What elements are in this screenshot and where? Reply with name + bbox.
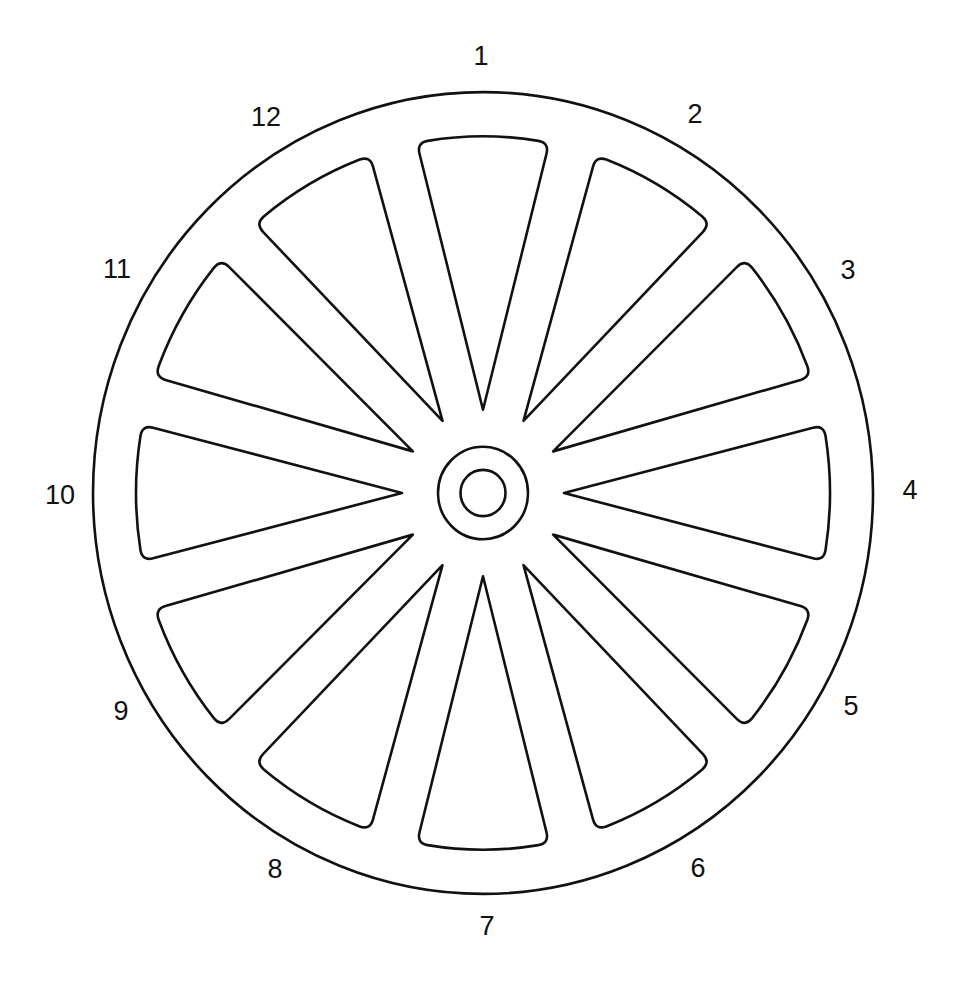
label-6: 6 <box>690 853 705 883</box>
outer-rim <box>93 92 873 894</box>
wheel-opening-1 <box>419 136 547 409</box>
hub-inner-circle <box>461 470 506 516</box>
label-7: 7 <box>479 911 494 941</box>
wheel-diagram: 1 2 3 4 5 6 7 8 9 10 11 12 <box>0 0 967 985</box>
label-8: 8 <box>267 854 282 884</box>
wheel-opening-6 <box>524 565 707 827</box>
opening-labels: 1 2 3 4 5 6 7 8 9 10 11 12 <box>45 41 918 941</box>
wheel-opening-12 <box>259 159 442 421</box>
wheel-openings <box>136 136 830 849</box>
wheel-opening-10 <box>136 427 402 559</box>
label-4: 4 <box>902 475 917 505</box>
hub-outer-circle <box>438 447 528 540</box>
wheel-opening-7 <box>419 576 547 849</box>
label-11: 11 <box>103 254 131 284</box>
wheel-opening-2 <box>524 159 707 421</box>
wheel-opening-9 <box>158 535 413 723</box>
wheel-opening-4 <box>564 427 830 559</box>
label-10: 10 <box>45 480 75 510</box>
wheel-opening-8 <box>259 565 442 827</box>
wheel <box>93 92 873 894</box>
wheel-opening-3 <box>553 263 808 451</box>
label-12: 12 <box>251 102 281 132</box>
wheel-opening-5 <box>553 535 808 723</box>
label-5: 5 <box>843 691 858 721</box>
label-1: 1 <box>473 41 488 71</box>
label-2: 2 <box>687 99 702 129</box>
label-9: 9 <box>113 696 128 726</box>
label-3: 3 <box>840 255 855 285</box>
wheel-opening-11 <box>158 263 413 451</box>
